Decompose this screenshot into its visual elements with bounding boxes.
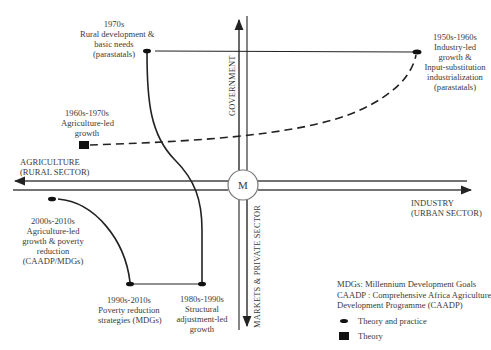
government-axis-label: GOVERNMENT [228, 55, 237, 116]
label-1980s: 1980s-1990s Structural adjustment-led gr… [172, 294, 232, 334]
industry-label-line1: INDUSTRY [411, 198, 482, 208]
label-1960s: 1960s-1970s Agriculture-led growth [61, 108, 113, 138]
label-1950s: 1950s-1960s Industry-led growth & Input-… [422, 32, 488, 92]
markets-axis [239, 200, 247, 330]
legend-label-theory: Theory [358, 331, 383, 342]
legend-label-theory-and-practice: Theory and practice [358, 316, 427, 327]
legend-item-theory: Theory [337, 331, 491, 342]
agriculture-axis-label: AGRICULTURE (RURAL SECTOR) [20, 157, 89, 177]
node-1960s-square-icon [79, 141, 89, 149]
path-1970s-1980s [147, 53, 202, 282]
legend-abbr-mdgs: MDGs: Millennium Development Goals [337, 279, 491, 290]
path-1970s-1950s [155, 51, 413, 52]
node-1950s-oval-icon [413, 50, 422, 55]
label-1990s: 1990s-2010s Poverty reduction strategies… [98, 295, 160, 325]
legend: MDGs: Millennium Development Goals CAADP… [337, 279, 491, 342]
node-1990s-oval-icon [126, 282, 134, 287]
node-2000s-oval-icon [48, 197, 56, 202]
markets-axis-label: MARKETS & PRIVATE SECTOR [253, 205, 262, 328]
dashed-path-1960s-1950s [90, 55, 416, 145]
label-1970s: 1970s Rural development & basic needs (p… [80, 19, 148, 59]
label-2000s: 2000s-2010s Agriculture-led growth & pov… [22, 216, 84, 266]
legend-abbr-caadp: CAADP : Comprehensive Africa Agriculture [337, 290, 491, 301]
agriculture-label-line2: (RURAL SECTOR) [20, 167, 89, 177]
legend-item-theory-and-practice: Theory and practice [337, 316, 491, 327]
square-icon [339, 332, 349, 340]
center-label: M [238, 179, 248, 191]
oval-icon [340, 319, 348, 323]
industry-label-line2: (URBAN SECTOR) [411, 208, 482, 218]
industry-axis-label: INDUSTRY (URBAN SECTOR) [411, 198, 482, 218]
industry-axis [258, 181, 471, 190]
legend-abbr-caadp-cont: Development Programme (CAADP) [337, 300, 491, 311]
government-axis [239, 16, 247, 170]
agriculture-label-line1: AGRICULTURE [20, 157, 89, 167]
node-1980s-oval-icon [198, 282, 206, 287]
